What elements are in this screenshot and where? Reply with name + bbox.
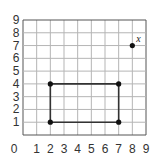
y-tick-label: 6	[13, 51, 20, 65]
point-label: x	[135, 33, 141, 44]
x-tick-label: 8	[129, 142, 136, 156]
x-tick-label: 2	[47, 142, 54, 156]
data-point	[116, 81, 121, 86]
y-tick-label: 7	[13, 39, 20, 53]
x-tick-label: 5	[88, 142, 95, 156]
data-point	[130, 43, 135, 48]
y-tick-label: 2	[13, 102, 20, 116]
x-tick-label: 4	[74, 142, 81, 156]
rectangle-shape	[50, 84, 118, 122]
x-tick-label: 9	[143, 142, 150, 156]
data-points: x	[48, 33, 142, 125]
data-point	[48, 120, 53, 125]
x-tick-label: 3	[61, 142, 68, 156]
x-tick-label: 1	[33, 142, 40, 156]
y-tick-label: 4	[13, 77, 20, 91]
y-tick-label: 8	[13, 26, 20, 40]
rectangle-outline	[50, 84, 118, 122]
y-tick-label: 3	[13, 90, 20, 104]
x-tick-label: 6	[102, 142, 109, 156]
y-tick-label: 5	[13, 64, 20, 78]
x-tick-label: 7	[115, 142, 122, 156]
grid-lines	[23, 20, 146, 135]
y-tick-label: 9	[13, 13, 20, 27]
coordinate-grid-chart: 0123456789123456789 x	[0, 0, 154, 158]
data-point	[48, 81, 53, 86]
data-point	[116, 120, 121, 125]
x-tick-label: 0	[11, 142, 18, 156]
y-tick-label: 1	[13, 115, 20, 129]
